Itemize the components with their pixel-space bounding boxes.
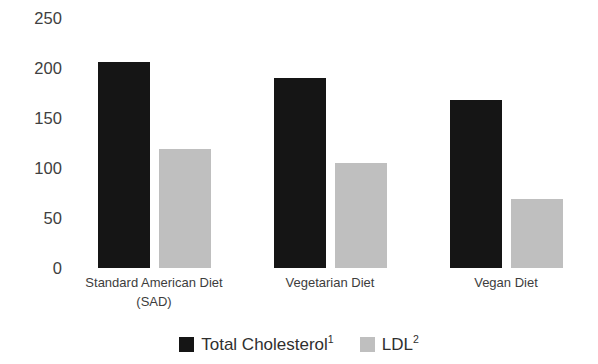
y-axis-tick-label: 0 <box>0 260 62 277</box>
y-axis-tick-label: 100 <box>0 160 62 177</box>
y-axis-tick-label: 250 <box>0 10 62 27</box>
y-axis-tick-label: 150 <box>0 110 62 127</box>
plot-area <box>66 18 594 268</box>
bar-total-cholesterol <box>450 100 502 268</box>
chart-legend: Total Cholesterol1LDL2 <box>0 330 598 358</box>
legend-label: LDL2 <box>382 336 419 353</box>
bar-ldl <box>335 163 387 268</box>
y-axis: 250200150100500 <box>0 18 62 268</box>
y-axis-tick-label: 50 <box>0 210 62 227</box>
legend-item-total-cholesterol[interactable]: Total Cholesterol1 <box>179 336 333 353</box>
legend-footnote-marker: 1 <box>328 333 334 345</box>
ldl-swatch-icon <box>360 337 375 352</box>
x-axis-label: Vegan Diet <box>418 274 594 293</box>
y-axis-tick-label: 200 <box>0 60 62 77</box>
bar-total-cholesterol <box>98 62 150 268</box>
legend-label: Total Cholesterol1 <box>201 336 333 353</box>
bar-total-cholesterol <box>274 78 326 268</box>
total-cholesterol-swatch-icon <box>179 337 194 352</box>
x-axis-label: Vegetarian Diet <box>242 274 418 293</box>
x-axis-category-labels: Standard American Diet (SAD)Vegetarian D… <box>66 274 594 318</box>
legend-item-ldl[interactable]: LDL2 <box>360 336 419 353</box>
bar-ldl <box>511 199 563 268</box>
bar-ldl <box>159 149 211 268</box>
legend-footnote-marker: 2 <box>413 333 419 345</box>
x-axis-label: Standard American Diet (SAD) <box>66 274 242 312</box>
bar-chart: 250200150100500 Standard American Diet (… <box>0 0 598 364</box>
